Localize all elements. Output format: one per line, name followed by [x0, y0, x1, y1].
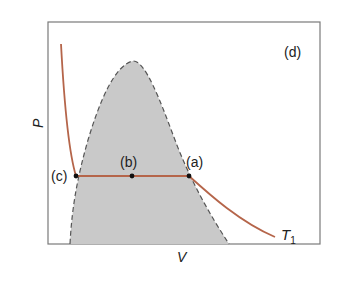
isotherm-label: T1 — [281, 226, 296, 246]
x-axis-label: V — [177, 249, 188, 265]
isotherm-label-subscript: 1 — [290, 235, 296, 246]
point-b-label: (b) — [120, 154, 137, 170]
point-a-label: (a) — [186, 154, 203, 170]
point-a-marker — [187, 174, 192, 179]
point-c-label: (c) — [51, 168, 67, 184]
point-c-marker — [74, 174, 79, 179]
point-b-marker — [130, 174, 135, 179]
y-axis-label: P — [30, 118, 46, 128]
panel-label: (d) — [284, 44, 301, 60]
coexistence-dome — [70, 61, 229, 244]
pv-diagram: (c) (b) (a) (d) V P T1 — [0, 0, 340, 284]
